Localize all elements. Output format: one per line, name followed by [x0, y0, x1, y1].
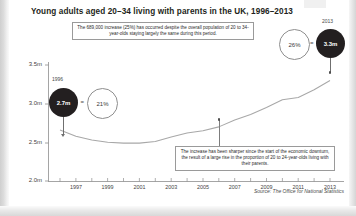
- y-axis-label-4: 2.0m: [20, 177, 42, 183]
- chart-figure: Young adults aged 20–34 living with pare…: [0, 0, 356, 216]
- callout-start-stem: [63, 117, 64, 135]
- annotation-top-text: The 689,000 increase (25%) has occurred …: [72, 22, 254, 40]
- x-tick-group: [60, 178, 330, 182]
- callout-end-share-text: 26%: [288, 42, 300, 48]
- annotation-bottom-text: The increase has been sharper since the …: [175, 146, 335, 171]
- callout-start-arrow-icon: [61, 134, 65, 137]
- x-axis-label-2001: 2001: [129, 184, 149, 190]
- callout-start-equals: =: [81, 99, 85, 105]
- callout-start-share-bubble: 21%: [87, 88, 118, 119]
- x-axis-label-2003: 2003: [161, 184, 181, 190]
- annotation-bottom-leader: [219, 120, 220, 146]
- y-axis-label-1: 3.5m: [20, 61, 42, 67]
- y-axis-label-3: 2.5m: [20, 139, 42, 145]
- callout-end-share-bubble: 26%: [279, 29, 310, 60]
- callout-end-value-text: 3.3m: [324, 41, 338, 47]
- annotation-bottom-anchor-dot: [218, 118, 221, 121]
- x-axis-label-2007: 2007: [225, 184, 245, 190]
- callout-end-value-bubble: 3.3m: [316, 29, 345, 58]
- x-axis-label-1997: 1997: [66, 184, 86, 190]
- source-caption: Source: The Office for National Statisti…: [254, 188, 344, 194]
- callout-start-share-text: 21%: [96, 101, 108, 107]
- callout-start-year: 1996: [52, 76, 63, 82]
- callout-start-value-text: 2.7m: [57, 100, 71, 106]
- callout-start-value-bubble: 2.7m: [49, 88, 78, 117]
- callout-end-year: 2013: [322, 18, 333, 24]
- callout-end-anchor-dot: [329, 71, 332, 74]
- x-axis-label-1999: 1999: [98, 184, 118, 190]
- x-axis-label-2005: 2005: [193, 184, 213, 190]
- callout-end-equals: =: [310, 40, 314, 46]
- y-axis-label-2: 3.0m: [20, 100, 42, 106]
